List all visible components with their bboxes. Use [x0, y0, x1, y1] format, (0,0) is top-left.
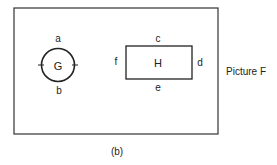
circle-bottom-label: b: [56, 86, 62, 96]
diagram-canvas: [0, 0, 277, 165]
rect-bottom-label: e: [155, 83, 161, 93]
rect-left-label: f: [115, 57, 118, 67]
picture-frame: [14, 8, 218, 134]
rect-top-label: c: [156, 34, 161, 44]
caption: (b): [111, 147, 123, 157]
circle-name-label: G: [54, 61, 63, 71]
picture-label: Picture F: [226, 67, 266, 77]
rect-name-label: H: [154, 58, 162, 68]
circle-top-label: a: [55, 34, 61, 44]
rect-right-label: d: [197, 58, 203, 68]
